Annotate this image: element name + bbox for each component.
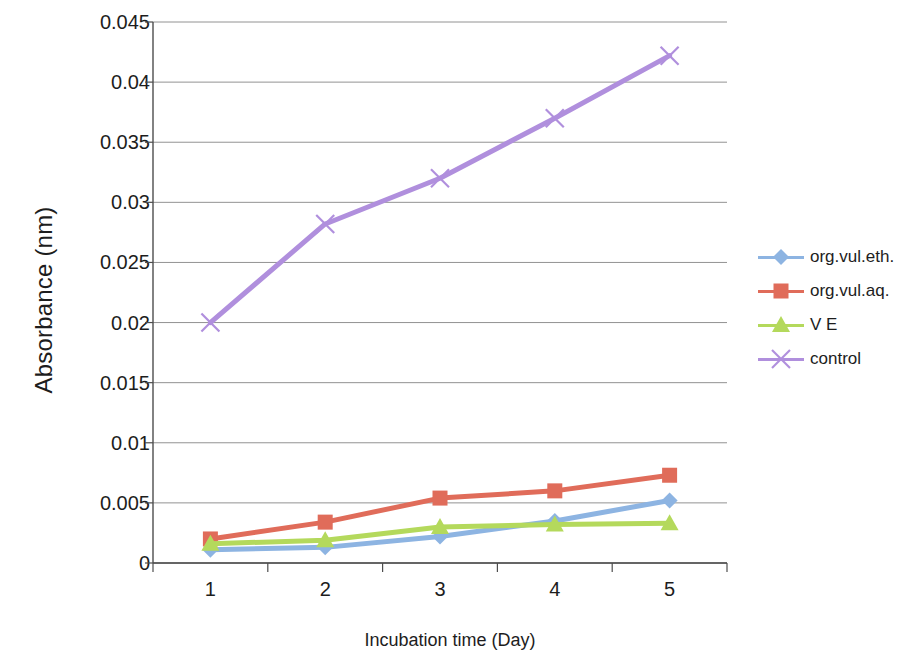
data-point-triangle: [772, 316, 790, 332]
legend-key-diamond-icon: [758, 246, 804, 268]
x-axis-tick-label: 4: [515, 578, 595, 601]
legend-label: control: [810, 349, 861, 369]
legend-key-square-icon: [758, 280, 804, 302]
x-axis-tick-label: 2: [285, 578, 365, 601]
legend-item[interactable]: control: [758, 342, 910, 376]
legend-label: org.vul.aq.: [810, 281, 889, 301]
legend-label: org.vul.eth.: [810, 247, 894, 267]
legend-marker-icon: [769, 245, 793, 269]
data-point-square: [547, 483, 562, 498]
legend-key-cross-icon: [758, 348, 804, 370]
data-point-diamond: [662, 492, 678, 508]
legend-key-triangle-icon: [758, 314, 804, 336]
chart-legend: org.vul.eth.org.vul.aq.V Econtrol: [758, 240, 910, 376]
legend-label: V E: [810, 315, 837, 335]
series-line: [210, 56, 669, 323]
x-axis-title: Incubation time (Day): [150, 630, 750, 651]
legend-item[interactable]: org.vul.aq.: [758, 274, 910, 308]
data-point-square: [662, 468, 677, 483]
data-point-square: [433, 491, 448, 506]
line-chart: Absorbance (nm) 00.0050.010.0150.020.025…: [0, 0, 910, 662]
x-axis-tick-label: 3: [400, 578, 480, 601]
legend-item[interactable]: org.vul.eth.: [758, 240, 910, 274]
series-v-e: [201, 514, 678, 550]
x-axis-tick-label: 5: [630, 578, 710, 601]
x-axis-tick-label: 1: [170, 578, 250, 601]
legend-marker-icon: [769, 347, 793, 371]
data-point-square: [318, 515, 333, 530]
legend-item[interactable]: V E: [758, 308, 910, 342]
data-point-diamond: [773, 249, 789, 265]
legend-marker-icon: [769, 279, 793, 303]
data-point-square: [774, 284, 789, 299]
legend-marker-icon: [769, 313, 793, 337]
series-control: [201, 47, 678, 332]
